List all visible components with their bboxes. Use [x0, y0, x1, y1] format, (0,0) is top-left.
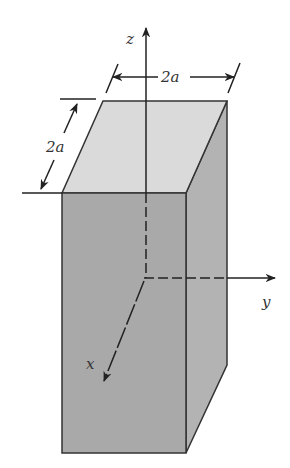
width-dim-label: 2a [160, 68, 180, 86]
y-axis-label: y [261, 293, 271, 311]
x-axis-label: x [86, 355, 95, 373]
depth-dim-arrow-up [64, 104, 77, 133]
width-dim-tick-right [228, 63, 240, 93]
depth-dim-label: 2a [45, 138, 65, 156]
prism-diagram: z y x 2a 2a [0, 0, 290, 468]
depth-dim-arrow-down [41, 160, 54, 189]
front-face [62, 193, 186, 453]
width-dim-tick-left [106, 64, 118, 93]
z-axis-label: z [125, 30, 134, 48]
